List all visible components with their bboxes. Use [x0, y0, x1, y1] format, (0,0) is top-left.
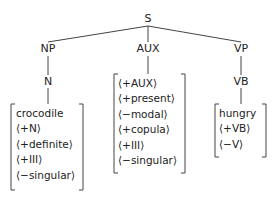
feature: ⟨+III⟩ [16, 152, 75, 167]
edge-s-np [48, 26, 148, 42]
vb-feature-matrix: hungry ⟨+VB⟩ ⟨−V⟩ [219, 106, 256, 152]
n-bracket-left [11, 104, 15, 190]
feature: ⟨−singular⟩ [16, 168, 75, 183]
n-feature-matrix: crocodile ⟨+N⟩ ⟨+definite⟩ ⟨+III⟩ ⟨−sing… [16, 106, 75, 183]
feature: hungry [219, 106, 256, 121]
node-np: NP [41, 43, 56, 55]
aux-bracket-right [181, 74, 185, 173]
feature: ⟨+present⟩ [118, 91, 177, 106]
node-vb: VB [233, 76, 248, 88]
feature: ⟨+VB⟩ [219, 121, 256, 136]
feature: crocodile [16, 106, 75, 121]
vb-bracket-right [262, 104, 266, 157]
node-s: S [145, 13, 152, 25]
feature: ⟨−singular⟩ [118, 153, 177, 168]
node-vp: VP [234, 43, 248, 55]
node-aux: AUX [136, 43, 159, 55]
feature: ⟨+definite⟩ [16, 137, 75, 152]
aux-feature-matrix: ⟨+AUX⟩ ⟨+present⟩ ⟨−modal⟩ ⟨+copula⟩ ⟨+I… [118, 76, 177, 168]
node-n: N [44, 76, 52, 88]
feature: ⟨+AUX⟩ [118, 76, 177, 91]
feature: ⟨+copula⟩ [118, 122, 177, 137]
feature: ⟨+III⟩ [118, 138, 177, 153]
feature: ⟨+N⟩ [16, 121, 75, 136]
n-bracket-right [79, 104, 83, 190]
feature: ⟨−V⟩ [219, 137, 256, 152]
feature: ⟨−modal⟩ [118, 107, 177, 122]
edge-s-vp [148, 26, 241, 42]
